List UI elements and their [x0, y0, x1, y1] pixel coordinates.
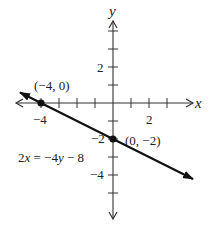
y-axis: y	[107, 3, 118, 219]
point-x-intercept	[37, 99, 44, 106]
y-axis-label: y	[107, 3, 116, 19]
equation-label: 2x = −4y − 8	[18, 150, 84, 165]
x-axis-label: x	[194, 95, 202, 111]
x-tick-label-2: 2	[146, 112, 153, 127]
point-y-intercept	[109, 135, 116, 142]
point-label-0-neg2: (0, −2)	[125, 133, 161, 148]
y-tick-label-neg4: −4	[90, 167, 104, 182]
y-tick-label-2: 2	[97, 60, 104, 75]
x-tick-label-neg4: −4	[33, 112, 47, 127]
coordinate-plane: x y −4 2 2 −2 −4 (−4, 0) (0, −2) 2x = −4…	[0, 0, 218, 233]
point-label-neg4-0: (−4, 0)	[34, 78, 70, 93]
